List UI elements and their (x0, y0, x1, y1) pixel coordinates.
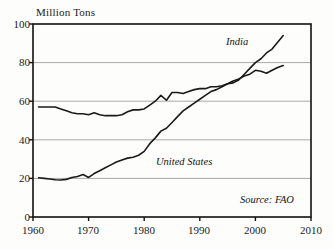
y-axis-tick-40: 40 (4, 134, 30, 146)
series-label-united-states: United States (156, 156, 212, 167)
y-axis-tick-80: 80 (4, 56, 30, 68)
y-axis-title: Million Tons (36, 6, 95, 18)
x-axis-tick-1970: 1970 (68, 224, 108, 236)
source-label: Source: FAO (240, 194, 294, 205)
series-label-india: India (226, 36, 248, 47)
plot-frame (33, 24, 311, 217)
x-axis-tick-2000: 2000 (235, 224, 275, 236)
axis-ticks (29, 24, 311, 221)
y-axis-tick-0: 0 (4, 211, 30, 223)
chart-figure: Million Tons 100 80 60 40 20 0 1960 1970… (0, 0, 333, 249)
x-axis-tick-1960: 1960 (13, 224, 53, 236)
y-axis-tick-20: 20 (4, 172, 30, 184)
chart-plot-area (0, 0, 333, 249)
x-axis-tick-1990: 1990 (179, 224, 219, 236)
y-axis-tick-60: 60 (4, 95, 30, 107)
y-axis-tick-100: 100 (4, 18, 30, 30)
x-axis-tick-1980: 1980 (124, 224, 164, 236)
x-axis-tick-2010: 2010 (291, 224, 331, 236)
